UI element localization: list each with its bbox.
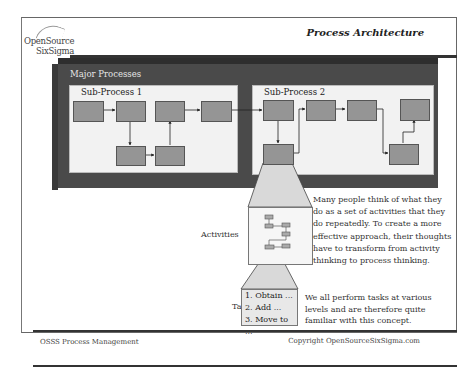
- process-step: [306, 100, 336, 121]
- mini-flowchart-icon: [249, 208, 312, 264]
- process-step: [116, 101, 146, 122]
- footer-copyright: Copyright OpenSourceSixSigma.com: [288, 337, 420, 345]
- task-item: 1. Obtain ...: [245, 290, 297, 302]
- task-item: 3. Move to ...: [245, 314, 297, 338]
- tasks-description: We all perform tasks at various levels a…: [305, 292, 445, 327]
- task-item: 2. Add ...: [245, 302, 297, 314]
- activities-description: Many people think of what they do as a s…: [313, 194, 453, 267]
- process-step: [155, 101, 185, 122]
- process-step: [155, 146, 185, 166]
- footer-divider: [33, 330, 457, 332]
- process-step-expanded: [263, 144, 294, 165]
- process-step: [400, 99, 430, 121]
- process-step: [263, 100, 294, 121]
- activities-label: Activities: [201, 230, 239, 239]
- process-step: [347, 100, 377, 121]
- process-step: [73, 101, 104, 122]
- process-step: [116, 146, 146, 166]
- process-step: [201, 101, 232, 122]
- process-step: [389, 144, 419, 165]
- bottom-divider: [33, 365, 457, 367]
- tasks-box: 1. Obtain ... 2. Add ... 3. Move to ...: [241, 289, 298, 326]
- footer-left-text: OSSS Process Management: [40, 338, 139, 346]
- activities-box: [248, 207, 313, 265]
